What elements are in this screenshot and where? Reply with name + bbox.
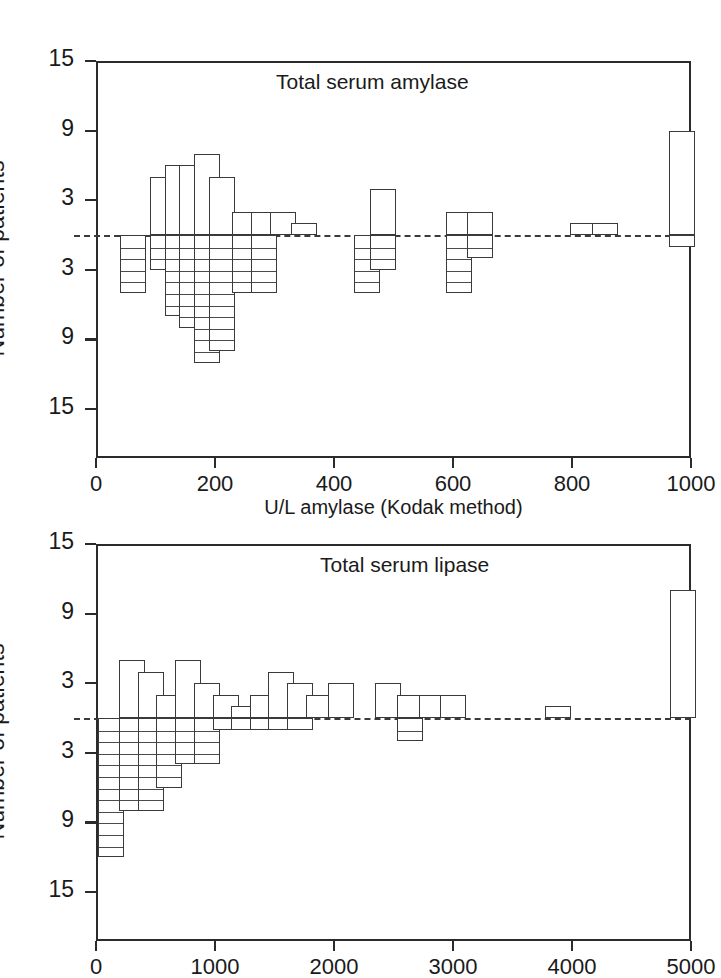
y-axis-tick bbox=[85, 752, 96, 754]
patient-segment-divider bbox=[355, 282, 379, 283]
chart-panel-lipase: 15933915010002000300040005000Total serum… bbox=[0, 528, 721, 971]
histogram-bar-down bbox=[287, 718, 313, 730]
patient-segment-divider bbox=[99, 847, 123, 848]
y-axis-tick bbox=[85, 338, 96, 340]
y-axis-tick bbox=[85, 891, 96, 893]
histogram-bar-up bbox=[370, 189, 396, 235]
y-axis-tick bbox=[85, 613, 96, 615]
x-axis-tick bbox=[95, 458, 97, 468]
x-axis-tick-label: 2000 bbox=[289, 954, 379, 978]
x-axis-tick-label: 5000 bbox=[646, 954, 721, 978]
histogram-bar-up bbox=[545, 706, 571, 718]
x-axis-tick-label: 4000 bbox=[527, 954, 617, 978]
histogram-bar-up bbox=[592, 223, 618, 235]
chart-title: Total serum amylase bbox=[276, 70, 469, 94]
x-axis-tick bbox=[452, 458, 454, 468]
y-axis-tick bbox=[85, 821, 96, 823]
y-axis-tick-label: 9 bbox=[16, 115, 74, 142]
histogram-bar-down bbox=[467, 235, 493, 258]
x-axis-tick bbox=[571, 941, 573, 951]
histogram-bar-down bbox=[669, 235, 695, 247]
patient-segment-divider bbox=[447, 282, 471, 283]
histogram-bar-up bbox=[467, 212, 493, 235]
histogram-bar-up bbox=[291, 223, 317, 235]
y-axis-tick bbox=[85, 408, 96, 410]
patient-segment-divider bbox=[195, 352, 219, 353]
patient-segment-divider bbox=[121, 282, 145, 283]
patient-segment-divider bbox=[210, 271, 234, 272]
y-axis-label: Number of patients bbox=[0, 128, 10, 388]
x-axis-tick bbox=[452, 941, 454, 951]
patient-segment-divider bbox=[210, 259, 234, 260]
patient-segment-divider bbox=[371, 259, 395, 260]
histogram-bar-down bbox=[120, 235, 146, 293]
y-axis-tick-label: 3 bbox=[16, 667, 74, 694]
chart-title: Total serum lipase bbox=[320, 553, 489, 577]
y-axis-tick-label: 15 bbox=[16, 876, 74, 903]
x-axis-tick bbox=[333, 941, 335, 951]
y-axis-tick bbox=[85, 199, 96, 201]
histogram-bar-up bbox=[669, 131, 695, 235]
x-axis-tick-label: 800 bbox=[527, 471, 617, 497]
patient-segment-divider bbox=[252, 271, 276, 272]
patient-segment-divider bbox=[195, 742, 219, 743]
patient-segment-divider bbox=[157, 777, 181, 778]
y-axis-tick-label: 9 bbox=[16, 323, 74, 350]
patient-segment-divider bbox=[371, 248, 395, 249]
x-axis-label: U/L amylase (Kodak method) bbox=[46, 496, 721, 519]
patient-segment-divider bbox=[355, 271, 379, 272]
patient-segment-divider bbox=[468, 248, 492, 249]
patient-segment-divider bbox=[210, 248, 234, 249]
y-axis-label: Number of patients bbox=[0, 611, 10, 871]
patient-segment-divider bbox=[210, 340, 234, 341]
histogram-bar-up bbox=[670, 590, 696, 718]
histogram-bar-down bbox=[370, 235, 396, 270]
patient-segment-divider bbox=[139, 789, 163, 790]
y-axis-tick bbox=[85, 60, 96, 62]
x-axis-tick-label: 1000 bbox=[646, 471, 721, 497]
x-axis-tick bbox=[95, 941, 97, 951]
y-axis-tick-label: 9 bbox=[16, 806, 74, 833]
y-axis-tick bbox=[85, 543, 96, 545]
histogram-bar-up bbox=[328, 683, 354, 718]
patient-segment-divider bbox=[210, 294, 234, 295]
y-axis-tick-label: 3 bbox=[16, 254, 74, 281]
patient-segment-divider bbox=[210, 282, 234, 283]
patient-segment-divider bbox=[99, 823, 123, 824]
y-axis-tick bbox=[85, 269, 96, 271]
patient-segment-divider bbox=[210, 306, 234, 307]
x-axis-tick-label: 3000 bbox=[408, 954, 498, 978]
x-axis-tick bbox=[214, 941, 216, 951]
patient-segment-divider bbox=[121, 259, 145, 260]
patient-segment-divider bbox=[398, 731, 422, 732]
patient-segment-divider bbox=[252, 259, 276, 260]
patient-segment-divider bbox=[447, 271, 471, 272]
x-axis-tick bbox=[333, 458, 335, 468]
patient-segment-divider bbox=[139, 800, 163, 801]
y-axis-tick-label: 3 bbox=[16, 184, 74, 211]
y-axis-tick-label: 9 bbox=[16, 598, 74, 625]
histogram-bar-down bbox=[251, 235, 277, 293]
x-axis-tick-label: 0 bbox=[51, 471, 141, 497]
patient-segment-divider bbox=[252, 282, 276, 283]
patient-segment-divider bbox=[99, 835, 123, 836]
x-axis-tick bbox=[690, 941, 692, 951]
patient-segment-divider bbox=[195, 731, 219, 732]
y-axis-tick-label: 15 bbox=[16, 393, 74, 420]
patient-segment-divider bbox=[210, 329, 234, 330]
patient-segment-divider bbox=[99, 812, 123, 813]
patient-segment-divider bbox=[121, 271, 145, 272]
histogram-bar-down bbox=[397, 718, 423, 741]
patient-segment-divider bbox=[210, 317, 234, 318]
patient-segment-divider bbox=[447, 259, 471, 260]
x-axis-tick-label: 200 bbox=[170, 471, 260, 497]
x-axis-tick-label: 0 bbox=[51, 954, 141, 978]
patient-segment-divider bbox=[157, 765, 181, 766]
patient-segment-divider bbox=[252, 248, 276, 249]
x-axis-tick-label: 400 bbox=[289, 471, 379, 497]
histogram-bar-up bbox=[440, 695, 466, 718]
x-axis-tick bbox=[690, 458, 692, 468]
x-axis-tick-label: 1000 bbox=[170, 954, 260, 978]
y-axis-tick-label: 15 bbox=[16, 528, 74, 555]
